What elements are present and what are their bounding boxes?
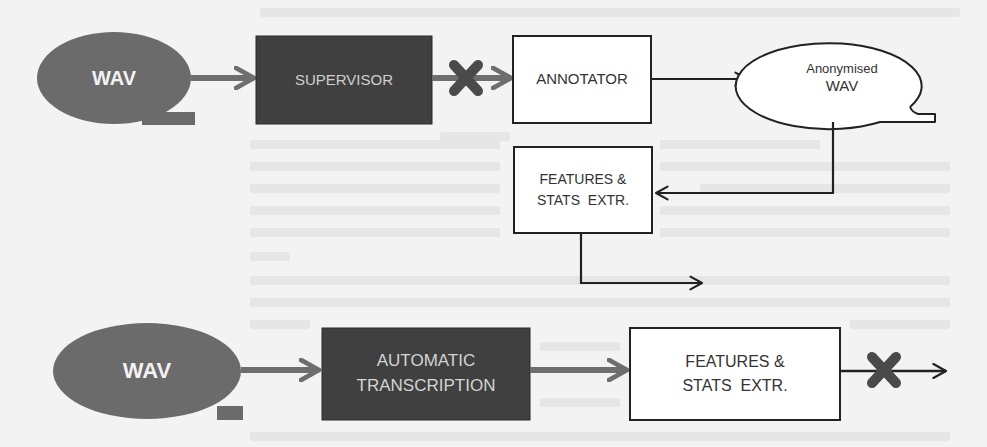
bottom-features-label: FEATURES & STATS EXTR. bbox=[630, 328, 840, 420]
supervisor-label: SUPERVISOR bbox=[256, 36, 432, 124]
bottom-wav-label: WAV bbox=[53, 323, 241, 419]
anonymised-to-features-arrow bbox=[656, 122, 833, 193]
transcription-label: AUTOMATIC TRANSCRIPTION bbox=[322, 328, 530, 420]
top-features-label: FEATURES & STATS EXTR. bbox=[514, 147, 652, 233]
top-features-output-arrow bbox=[581, 233, 702, 283]
anonymised-wav-label: Anonymised WAV bbox=[749, 40, 935, 116]
annotator-label: ANNOTATOR bbox=[513, 36, 651, 123]
top-wav-label: WAV bbox=[37, 32, 191, 124]
